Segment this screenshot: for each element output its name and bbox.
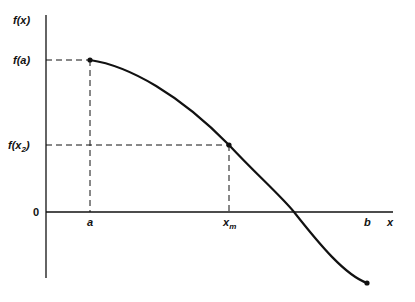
y-axis-label: f(x) xyxy=(13,14,30,26)
x-tick-a: a xyxy=(87,216,93,228)
start-point xyxy=(87,57,92,62)
origin-label: 0 xyxy=(33,206,39,218)
graph-svg: f(x) f(a) f(x2) 0 a xm b x xyxy=(0,0,415,302)
x-tick-b: b xyxy=(364,216,371,228)
x-tick-xm: xm xyxy=(222,216,236,231)
function-curve xyxy=(90,60,367,283)
y-tick-fa: f(a) xyxy=(13,54,30,66)
x-axis-label: x xyxy=(386,216,394,228)
mid-point xyxy=(226,142,231,147)
y-tick-fx2: f(x2) xyxy=(8,139,30,154)
end-point xyxy=(364,280,369,285)
function-graph-diagram: f(x) f(a) f(x2) 0 a xm b x xyxy=(0,0,415,302)
